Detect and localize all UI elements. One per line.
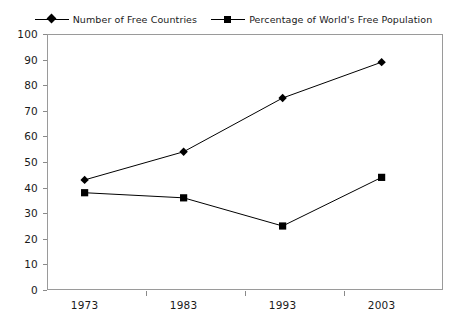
y-axis-tick-mark xyxy=(43,264,47,265)
square-marker-icon xyxy=(211,14,245,25)
y-axis-tick-label: 20 xyxy=(4,233,38,245)
y-axis-tick-label: 60 xyxy=(4,130,38,142)
y-axis-tick-mark xyxy=(43,136,47,137)
y-axis-tick-label: 10 xyxy=(4,258,38,270)
y-axis-tick-mark xyxy=(43,188,47,189)
x-axis-tick-mark xyxy=(245,291,246,296)
diamond-marker-icon xyxy=(35,14,69,25)
y-axis-tick-label: 70 xyxy=(4,105,38,117)
plot-area xyxy=(47,34,443,290)
y-axis-tick-mark xyxy=(43,290,47,291)
y-axis-tick-label: 80 xyxy=(4,79,38,91)
chart-legend: Number of Free Countries Percentage of W… xyxy=(0,11,467,27)
x-axis-tick-label: 1983 xyxy=(170,299,198,311)
line-chart: Number of Free Countries Percentage of W… xyxy=(0,0,467,323)
y-axis-tick-mark xyxy=(43,213,47,214)
y-axis-tick-mark xyxy=(43,111,47,112)
x-axis-tick-mark xyxy=(146,291,147,296)
y-axis-tick-label: 50 xyxy=(4,156,38,168)
y-axis-tick-mark xyxy=(43,162,47,163)
y-axis-tick-label: 40 xyxy=(4,182,38,194)
y-axis-tick-label: 90 xyxy=(4,54,38,66)
y-axis-tick-mark xyxy=(43,34,47,35)
y-axis-tick-mark xyxy=(43,85,47,86)
x-axis-tick-label: 1993 xyxy=(269,299,297,311)
y-axis-tick-mark xyxy=(43,239,47,240)
x-axis-tick-label: 1973 xyxy=(71,299,99,311)
y-axis-tick-label: 100 xyxy=(4,28,38,40)
legend-entry-free-population: Percentage of World's Free Population xyxy=(211,14,432,25)
legend-label: Percentage of World's Free Population xyxy=(249,14,432,25)
legend-label: Number of Free Countries xyxy=(73,14,198,25)
y-axis-tick-label: 0 xyxy=(4,284,38,296)
y-axis-tick-mark xyxy=(43,60,47,61)
y-axis-tick-label: 30 xyxy=(4,207,38,219)
x-axis-tick-label: 2003 xyxy=(368,299,396,311)
x-axis-tick-mark xyxy=(344,291,345,296)
legend-entry-free-countries: Number of Free Countries xyxy=(35,14,198,25)
